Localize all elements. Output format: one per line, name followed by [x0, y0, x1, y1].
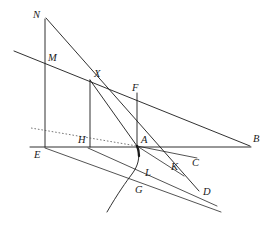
segment-M-to-B — [14, 51, 250, 146]
label-X: X — [93, 68, 101, 79]
label-G: G — [135, 184, 143, 195]
label-K: K — [170, 161, 179, 172]
label-B: B — [253, 133, 260, 144]
label-F: F — [131, 82, 139, 93]
label-A: A — [140, 134, 148, 145]
label-C: C — [192, 157, 200, 168]
geometry-canvas: N M X F H A B E K C L G D — [0, 0, 276, 232]
curve-A-L-G — [107, 150, 139, 212]
label-M: M — [47, 52, 58, 63]
label-L: L — [144, 167, 151, 178]
label-N: N — [32, 9, 41, 20]
label-D: D — [202, 186, 211, 197]
label-H: H — [77, 134, 87, 145]
label-E: E — [33, 149, 41, 160]
geometry-figure: N M X F H A B E K C L G D — [0, 0, 276, 232]
